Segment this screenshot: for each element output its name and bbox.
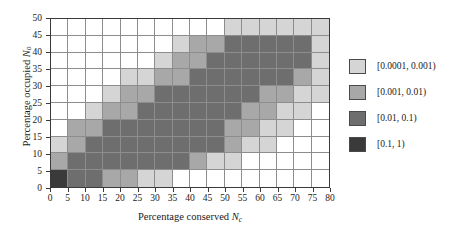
heatmap-cell	[138, 69, 155, 86]
heatmap-cell	[312, 170, 329, 187]
x-axis-tick	[278, 188, 279, 192]
heatmap-cell	[260, 153, 277, 170]
y-axis-tick-label: 35	[0, 64, 42, 74]
legend-item: [0.0001, 0.001)	[349, 53, 455, 79]
heatmap-cell	[260, 120, 277, 137]
heatmap-cell	[51, 36, 68, 53]
x-axis-tick	[173, 188, 174, 192]
x-axis-symbol: N	[232, 211, 239, 222]
heatmap-cell	[260, 19, 277, 36]
heatmap-cell	[312, 69, 329, 86]
heatmap-cell	[277, 137, 294, 154]
y-axis-tick	[46, 171, 50, 172]
heatmap-cell	[277, 153, 294, 170]
heatmap-cell	[312, 53, 329, 70]
heatmap-cell	[260, 36, 277, 53]
heatmap-cell	[155, 120, 172, 137]
legend-label: [0.001, 0.01)	[377, 87, 426, 97]
heatmap-cell	[207, 103, 224, 120]
heatmap-cell	[173, 153, 190, 170]
heatmap-cell	[225, 69, 242, 86]
heatmap-cell	[51, 153, 68, 170]
heatmap-cell	[173, 103, 190, 120]
heatmap-cell	[294, 137, 311, 154]
heatmap-cell	[68, 86, 85, 103]
x-axis-tick	[138, 188, 139, 192]
heatmap-cell	[103, 153, 120, 170]
heatmap-cell	[86, 120, 103, 137]
heatmap-cell	[312, 153, 329, 170]
heatmap-cell	[207, 19, 224, 36]
heatmap-cell	[207, 137, 224, 154]
heatmap-cell	[260, 69, 277, 86]
heatmap-cell	[155, 86, 172, 103]
heatmap-cell	[277, 86, 294, 103]
legend-swatch	[349, 137, 366, 152]
heatmap-cell	[121, 170, 138, 187]
heatmap-cell	[294, 86, 311, 103]
heatmap-cell	[294, 170, 311, 187]
heatmap-cell	[242, 69, 259, 86]
y-axis-tick-label: 30	[0, 81, 42, 91]
heatmap-cell	[103, 103, 120, 120]
y-axis-tick-label: 20	[0, 115, 42, 125]
y-axis-tick-label: 50	[0, 13, 42, 23]
y-axis-tick	[46, 137, 50, 138]
heatmap-cell	[155, 19, 172, 36]
legend-label: [0.01, 0.1)	[377, 113, 417, 123]
x-axis-tick	[155, 188, 156, 192]
y-axis-tick	[46, 35, 50, 36]
heatmap-cell	[294, 53, 311, 70]
heatmap-cell	[294, 153, 311, 170]
x-axis-tick-label: 80	[325, 193, 335, 203]
heatmap-cell	[277, 170, 294, 187]
heatmap-cell	[121, 153, 138, 170]
heatmap-cell	[121, 36, 138, 53]
heatmap-cell	[173, 53, 190, 70]
heatmap-cell	[190, 19, 207, 36]
heatmap-cell	[138, 86, 155, 103]
x-axis-tick-label: 25	[133, 193, 143, 203]
heatmap-cell	[225, 153, 242, 170]
heatmap-cell	[103, 19, 120, 36]
heatmap-cell	[86, 137, 103, 154]
heatmap-cell	[190, 86, 207, 103]
heatmap-cell	[68, 103, 85, 120]
y-axis-tick	[46, 52, 50, 53]
heatmap-cell	[242, 153, 259, 170]
heatmap-cell	[190, 153, 207, 170]
heatmap-cell	[242, 170, 259, 187]
heatmap-cell	[277, 69, 294, 86]
heatmap-cell	[51, 137, 68, 154]
heatmap-cell	[86, 103, 103, 120]
x-axis-tick	[120, 188, 121, 192]
heatmap-cell	[190, 103, 207, 120]
x-axis-tick-label: 15	[98, 193, 108, 203]
x-axis-tick-label: 70	[290, 193, 300, 203]
heatmap-cell	[207, 170, 224, 187]
plot-area	[50, 18, 330, 188]
heatmap-cell	[312, 137, 329, 154]
heatmap-cell	[51, 103, 68, 120]
legend-label: [0.0001, 0.001)	[377, 61, 436, 71]
x-axis-tick	[313, 188, 314, 192]
x-axis-tick-label: 55	[238, 193, 248, 203]
heatmap-cell	[225, 103, 242, 120]
heatmap-cell	[138, 53, 155, 70]
heatmap-cell	[242, 137, 259, 154]
heatmap-cell	[225, 137, 242, 154]
x-axis-tick	[225, 188, 226, 192]
heatmap-cell	[138, 153, 155, 170]
y-axis-tick	[46, 69, 50, 70]
x-axis-tick-label: 20	[115, 193, 125, 203]
y-axis-tick	[46, 154, 50, 155]
heatmap-cell	[121, 53, 138, 70]
heatmap-cell	[277, 53, 294, 70]
heatmap-cell	[242, 19, 259, 36]
x-axis-tick-label: 65	[273, 193, 283, 203]
heatmap-cell	[155, 53, 172, 70]
heatmap-cell	[225, 19, 242, 36]
heatmap-cell	[294, 36, 311, 53]
heatmap-cell	[155, 153, 172, 170]
heatmap-cell	[190, 137, 207, 154]
